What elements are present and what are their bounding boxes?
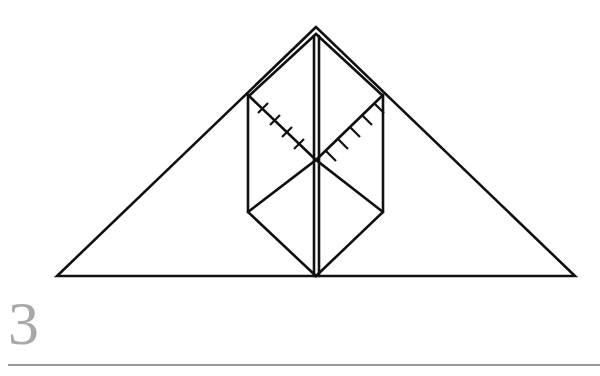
divider-rule — [8, 364, 600, 366]
inner-right-edge — [316, 34, 382, 95]
inner-left-edge — [250, 34, 316, 95]
left-fold-line — [248, 95, 316, 160]
flap-inner-diamond — [248, 160, 383, 212]
fold-diagram — [0, 0, 600, 376]
step-number: 3 — [8, 292, 39, 354]
outer-triangle — [57, 27, 575, 276]
